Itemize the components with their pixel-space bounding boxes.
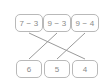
answer-label: 5 [55,65,60,74]
connection-line[interactable] [29,33,57,59]
expression-box-0[interactable]: 7 − 3 [15,14,43,32]
expression-label: 7 − 3 [19,19,38,28]
matching-diagram: 7 − 3 9 − 3 9 − 4 6 5 4 [0,0,111,84]
expression-label: 9 − 4 [75,19,94,28]
expression-label: 9 − 3 [47,19,66,28]
answer-label: 6 [27,65,32,74]
connection-line[interactable] [57,33,85,59]
answer-box-2[interactable]: 4 [72,60,98,78]
answer-box-0[interactable]: 6 [16,60,42,78]
answer-label: 4 [83,65,88,74]
answer-box-1[interactable]: 5 [44,60,70,78]
connection-line[interactable] [29,33,85,59]
expression-box-1[interactable]: 9 − 3 [43,14,71,32]
expression-box-2[interactable]: 9 − 4 [71,14,99,32]
